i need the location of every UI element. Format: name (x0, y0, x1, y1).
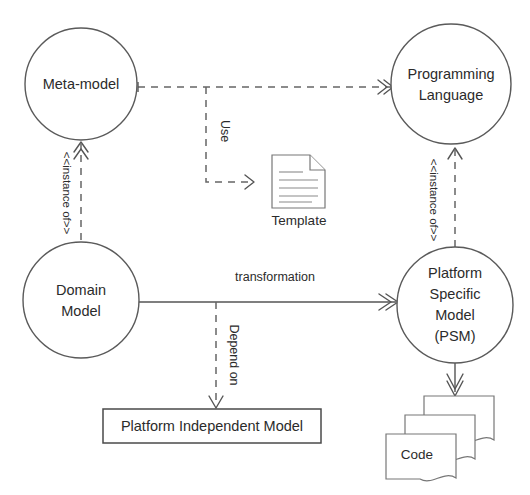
node-platform-specific-model[interactable]: Platform Specific Model (PSM) (397, 247, 513, 363)
code-label: Code (401, 447, 433, 462)
edge-instance-of-right: <<instance of>> (428, 148, 462, 247)
diagram-canvas: Use <<instance of>> <<instance of>> tran… (0, 0, 530, 495)
programming-language-label-line2: Language (419, 87, 484, 103)
psm-label-line4: (PSM) (434, 328, 475, 344)
edge-instance-of-left: <<instance of>> (61, 142, 88, 240)
edge-depend-on: Depend on (209, 302, 241, 408)
edge-instance-of-left-label: <<instance of>> (61, 152, 73, 235)
psm-label-line2: Specific (430, 286, 481, 302)
edge-depend-on-label: Depend on (227, 324, 241, 385)
psm-label-line3: Model (435, 307, 475, 323)
programming-language-circle[interactable] (391, 24, 511, 144)
domain-model-label-line1: Domain (56, 282, 106, 298)
edge-transformation-label: transformation (235, 270, 315, 284)
node-programming-language[interactable]: Programming Language (391, 24, 511, 144)
template-folded-corner-icon (310, 155, 325, 170)
node-platform-independent-model[interactable]: Platform Independent Model (103, 409, 321, 443)
programming-language-label-line1: Programming (407, 66, 494, 82)
domain-model-label-line2: Model (61, 303, 101, 319)
meta-model-label: Meta-model (43, 76, 120, 92)
edge-use-label: Use (218, 120, 232, 142)
edge-use-template: Use (206, 87, 254, 189)
node-meta-model[interactable]: Meta-model (25, 28, 137, 140)
node-code[interactable]: Code (386, 396, 494, 481)
psm-label-line1: Platform (428, 265, 482, 281)
node-template[interactable]: Template (272, 155, 327, 228)
mda-diagram: Use <<instance of>> <<instance of>> tran… (0, 0, 530, 495)
edge-instance-of-right-label: <<instance of>> (428, 159, 440, 242)
domain-model-circle[interactable] (23, 242, 139, 358)
edge-generates-code (447, 362, 463, 396)
platform-independent-model-label: Platform Independent Model (121, 418, 303, 434)
edge-use (138, 80, 393, 94)
edge-transformation: transformation (139, 270, 398, 310)
node-domain-model[interactable]: Domain Model (23, 242, 139, 358)
template-label: Template (272, 213, 327, 228)
